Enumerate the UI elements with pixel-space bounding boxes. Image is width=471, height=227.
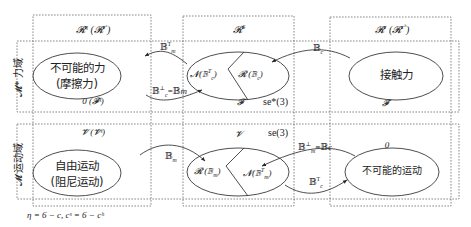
arrow-label-bm: 𝔹m [165,152,177,164]
ellipse-free-motion [33,150,121,196]
motion-range-label: 𝓡 (𝔹m) [194,167,220,179]
arrow-label-bc-perp: 𝔹⊥c=𝔹m [152,86,187,99]
force-group-label: se*(3) [263,97,288,107]
row-label-motion-domain: 𝓜 运动域 [10,135,25,195]
row-label-force-domain: 𝓜* 力域 [10,52,25,104]
force-right-caption: 𝓕̄ [382,99,389,108]
force-left-caption: 0 (𝓕̄ˢ) [82,97,104,106]
arrow-label-bc: 𝔹c [313,44,323,56]
motion-left-caption: 𝓥̄ (𝓥̄ˢ) [81,128,105,137]
arrow-label-bmT: 𝔹Tm [160,42,175,55]
motion-nullspace-label: 𝓝(𝔹Tm) [243,168,272,181]
arrow-label-bcT: 𝔹Tc [309,177,323,190]
motion-group-label: se(3) [268,128,288,138]
column-header-center: 𝓡6 [233,24,245,35]
motion-space-caption: 𝓥 [235,130,242,139]
column-header-left: 𝓡η (𝓡cˢ) [76,24,111,35]
damped-motion-label: (阻尼运动) [51,177,104,189]
column-header-right: 𝓡c (𝓡cʰ) [375,24,410,35]
subspace-diagram: 𝓡η (𝓡cˢ) 𝓡6 𝓡c (𝓡cʰ) 𝓜* 力域 𝓜 运动域 不可能的力 (… [0,0,471,227]
contact-force-label: 接触力 [380,70,413,82]
motion-right-caption: 0 [385,141,390,150]
force-nullspace-label: 𝓝(𝔹Tc) [190,69,217,82]
friction-force-label: (摩擦力) [56,79,98,91]
impossible-motion-label: 不可能的运动 [362,166,422,176]
force-range-label: 𝓡 (𝔹c) [238,70,263,82]
free-motion-label: 自由运动 [55,161,99,173]
ellipse-impossible-force [33,53,121,99]
impossible-force-label: 不可能的力 [50,63,105,75]
footnote-equations: η = 6 − c, cˢ = 6 − cʰ [27,211,104,220]
arrow-bc [272,50,350,62]
arrow-label-bm-perp: 𝔹⊥m=𝔹c [298,142,332,155]
force-space-caption: 𝓕 [237,98,244,107]
